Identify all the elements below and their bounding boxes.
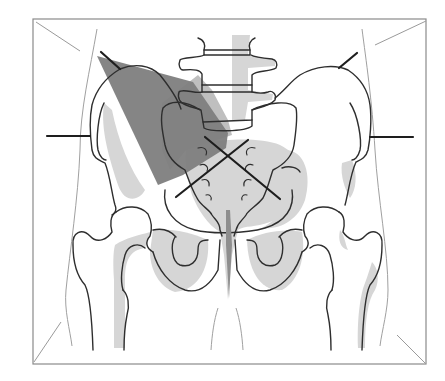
right-crest-tick xyxy=(339,53,357,68)
diagram-canvas xyxy=(0,0,445,381)
pelvis-diagram: Pelvis AP positioning diagram xyxy=(0,0,445,381)
